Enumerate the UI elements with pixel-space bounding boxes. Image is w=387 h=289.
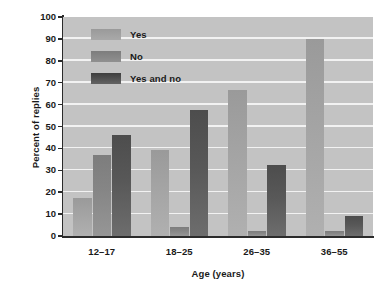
y-tick-label-10: 10 [16, 209, 56, 219]
y-tick-mark-80 [58, 60, 62, 62]
y-tick-mark-100 [58, 16, 62, 18]
bar-yes-and-no-36-55 [345, 216, 364, 236]
bar-yes-26-35 [228, 90, 247, 236]
bar-no-36-55 [325, 231, 344, 236]
bar-yes-12-17 [73, 198, 92, 236]
y-tick-mark-70 [58, 82, 62, 84]
plot-area: YesNoYes and no [63, 17, 373, 236]
x-axis-line [62, 236, 374, 238]
legend-swatch-icon [91, 29, 121, 40]
x-axis-title: Age (years) [63, 268, 373, 279]
y-tick-label-40: 40 [16, 143, 56, 153]
y-tick-label-30: 30 [16, 165, 56, 175]
bar-chart-figure: Percent of replies YesNoYes and no 01020… [0, 0, 387, 289]
bar-no-26-35 [248, 231, 267, 236]
bar-yes-and-no-12-17 [112, 135, 131, 236]
y-tick-label-60: 60 [16, 100, 56, 110]
y-tick-label-70: 70 [16, 78, 56, 88]
y-tick-mark-40 [58, 148, 62, 150]
bar-no-18-25 [170, 227, 189, 236]
bar-yes-and-no-18-25 [190, 110, 209, 236]
bar-yes-and-no-26-35 [267, 165, 286, 236]
legend-item-no: No [91, 47, 181, 65]
y-tick-mark-60 [58, 104, 62, 106]
x-tick-label-1: 18–25 [141, 246, 219, 257]
y-tick-mark-50 [58, 126, 62, 128]
y-tick-label-90: 90 [16, 34, 56, 44]
y-tick-label-50: 50 [16, 122, 56, 132]
gridline-40 [63, 147, 373, 149]
x-tick-label-0: 12–17 [63, 246, 141, 257]
y-tick-mark-0 [58, 235, 62, 237]
legend-label: No [130, 51, 143, 62]
bar-yes-18-25 [151, 150, 170, 237]
y-tick-label-100: 100 [16, 12, 56, 22]
y-tick-label-80: 80 [16, 56, 56, 66]
legend-item-yes: Yes [91, 25, 181, 43]
bar-no-12-17 [93, 155, 112, 236]
y-tick-mark-90 [58, 38, 62, 40]
x-tick-label-2: 26–35 [218, 246, 296, 257]
y-tick-label-20: 20 [16, 187, 56, 197]
chart-legend: YesNoYes and no [91, 25, 181, 91]
legend-label: Yes and no [130, 73, 181, 84]
legend-label: Yes [130, 29, 147, 40]
y-tick-mark-20 [58, 191, 62, 193]
gridline-60 [63, 103, 373, 105]
y-tick-mark-10 [58, 213, 62, 215]
gridline-50 [63, 125, 373, 127]
x-tick-label-3: 36–55 [296, 246, 374, 257]
y-tick-mark-30 [58, 170, 62, 172]
legend-swatch-icon [91, 51, 121, 62]
y-tick-label-0: 0 [16, 231, 56, 241]
legend-swatch-icon [91, 73, 121, 84]
legend-item-yes-and-no: Yes and no [91, 69, 181, 87]
bar-yes-36-55 [306, 39, 325, 236]
